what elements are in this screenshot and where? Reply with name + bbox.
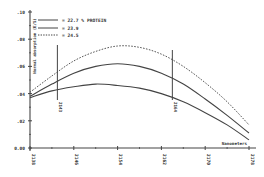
x-tick-label: 2178: [250, 154, 255, 165]
legend: = 22.7 % PROTEIN= 23.9= 24.5: [38, 18, 106, 38]
y-tick-label: .10: [17, 10, 25, 15]
y-tick-label: .02: [17, 119, 25, 124]
protein-absorption-chart: .10.08.06.04.020.00213821462154216221702…: [0, 0, 264, 177]
series-curve-1: [30, 64, 249, 133]
x-tick-label: 2146: [74, 154, 79, 165]
y-tick-label: 0.00: [14, 146, 25, 151]
y-axis-label: Normal absorption (E/S): [32, 18, 37, 73]
y-tick-label: .08: [17, 37, 25, 42]
x-tick-label: 2170: [206, 154, 211, 165]
annotations: 21432164: [57, 45, 177, 113]
y-tick-label: .04: [17, 92, 25, 97]
legend-label: = 24.5: [62, 33, 79, 38]
data-curves: [30, 46, 249, 140]
annotation-label: 2164: [173, 102, 178, 113]
y-tick-label: .06: [17, 64, 25, 69]
x-axis-label: Nanometers: [222, 141, 248, 146]
series-curve-2: [30, 46, 249, 125]
legend-label: = 22.7 % PROTEIN: [62, 18, 106, 23]
legend-label: = 23.9: [62, 26, 79, 31]
annotation-label: 2143: [58, 102, 63, 113]
x-tick-label: 2138: [31, 154, 36, 165]
x-tick-label: 2162: [162, 154, 167, 165]
x-tick-label: 2154: [118, 154, 123, 165]
chart-canvas: .10.08.06.04.020.00213821462154216221702…: [0, 0, 264, 177]
